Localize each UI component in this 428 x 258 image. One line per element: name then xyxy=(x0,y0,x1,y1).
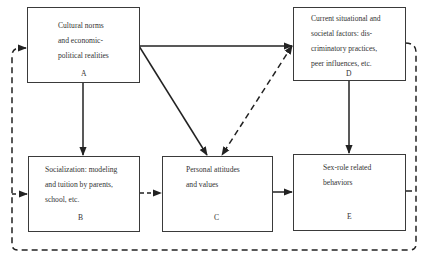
node-d-line-4: peer influences, etc. xyxy=(311,56,372,71)
node-c-personal-attitudes: Personal attitudes and values C xyxy=(162,156,273,232)
node-b-line-3: school, etc. xyxy=(45,192,79,207)
node-a-line-2: and economic- xyxy=(58,33,103,48)
node-b-line-1: Socialization: modeling xyxy=(45,162,117,177)
node-e-sex-role-behaviors: Sex-role related behaviors E xyxy=(293,154,406,231)
node-a-line-1: Cultural norms xyxy=(58,18,104,33)
node-c-label: C xyxy=(214,213,219,222)
node-a-label: A xyxy=(81,69,86,78)
edge-c-d-dashed xyxy=(222,46,292,155)
node-a-line-3: political realities xyxy=(58,48,109,63)
node-a-cultural-norms: Cultural norms and economic- political r… xyxy=(27,7,140,83)
node-d-label: D xyxy=(346,69,351,78)
node-d-line-2: societal factors: dis- xyxy=(311,26,372,41)
node-b-line-2: and tuition by parents, xyxy=(45,177,113,192)
node-e-line-2: behaviors xyxy=(323,175,353,190)
node-d-line-1: Current situational and xyxy=(311,11,381,26)
node-c-line-2: and values xyxy=(186,177,218,192)
edge-a-to-c xyxy=(139,46,207,155)
node-c-line-1: Personal attitudes xyxy=(186,162,240,177)
node-b-label: B xyxy=(78,213,83,222)
node-d-situational-factors: Current situational and societal factors… xyxy=(293,7,406,81)
node-b-socialization: Socialization: modeling and tuition by p… xyxy=(28,156,140,232)
node-e-line-1: Sex-role related xyxy=(323,160,371,175)
node-d-line-3: criminatory practices, xyxy=(311,41,377,56)
node-e-label: E xyxy=(347,212,352,221)
